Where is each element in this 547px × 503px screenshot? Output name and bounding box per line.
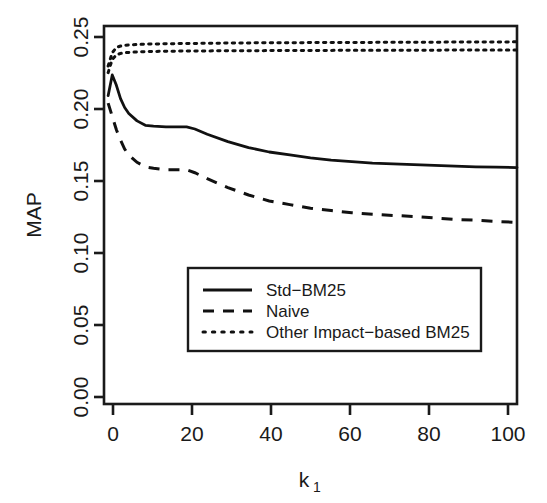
legend: Std−BM25 Naive Other Impact−based BM25 [188,268,481,351]
y-tick-label: 0.25 [69,17,92,58]
y-tick-label: 0.10 [69,233,92,274]
x-tick-label: 80 [417,422,440,445]
x-tick-label: 40 [259,422,282,445]
x-axis-title-subscript: 1 [313,479,321,495]
x-tick-label: 100 [490,422,525,445]
legend-label-naive: Naive [266,302,309,321]
legend-label-std-bm25: Std−BM25 [266,281,346,300]
y-tick-label: 0.20 [69,89,92,130]
x-tick-label: 20 [180,422,203,445]
chart-canvas: 0.25 0.20 0.15 0.10 0.05 0.00 MAP 0 20 4… [0,0,547,503]
y-tick-label: 0.05 [69,305,92,346]
x-axis-title-base: k [299,468,310,491]
legend-label-other-impact-based-bm25: Other Impact−based BM25 [266,323,470,342]
y-tick-label: 0.15 [69,161,92,202]
x-tick-label: 60 [338,422,361,445]
x-tick-label: 0 [107,422,119,445]
y-axis-title: MAP [22,192,45,238]
chart-figure: 0.25 0.20 0.15 0.10 0.05 0.00 MAP 0 20 4… [0,0,547,503]
y-tick-label: 0.00 [69,377,92,418]
